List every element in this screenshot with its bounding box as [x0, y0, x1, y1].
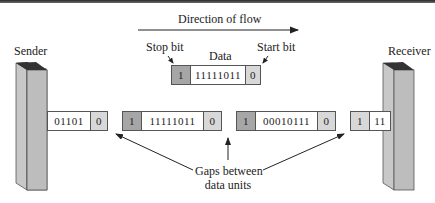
- stream-frame-4: 1 11: [350, 111, 391, 131]
- stop-bit-cell: 1: [123, 112, 141, 130]
- start-bit-cell: 0: [245, 66, 260, 84]
- start-bit-cell: 0: [90, 112, 107, 130]
- data-cell: 01101: [48, 112, 90, 130]
- direction-of-flow-label: Direction of flow: [178, 12, 261, 26]
- stop-bit-label: Stop bit: [146, 40, 184, 54]
- start-bit-label: Start bit: [257, 40, 295, 54]
- stream-frame-3: 1 00010111 0: [236, 111, 336, 131]
- data-cell: 11111011: [141, 112, 203, 130]
- stop-bit-cell: 1: [351, 112, 369, 130]
- legend-frame: 1 11111011 0: [171, 65, 261, 85]
- start-bit-pointer: [263, 56, 268, 63]
- data-label: Data: [209, 49, 232, 63]
- gaps-label: Gaps between data units: [195, 164, 261, 192]
- data-cell: 11111011: [190, 66, 245, 84]
- gaps-label-line1: Gaps between: [195, 164, 261, 178]
- stream-frame-2: 1 11111011 0: [122, 111, 222, 131]
- data-cell: 00010111: [255, 112, 317, 130]
- stream-frame-1: 01101 0: [47, 111, 108, 131]
- sender-label: Sender: [14, 44, 47, 58]
- stop-bit-cell: 1: [172, 66, 190, 84]
- data-cell: 11: [369, 112, 390, 130]
- stop-bit-pointer: [168, 56, 173, 63]
- stop-bit-cell: 1: [237, 112, 255, 130]
- receiver-label: Receiver: [388, 44, 431, 58]
- start-bit-cell: 0: [317, 112, 335, 130]
- sender-device: [16, 62, 47, 190]
- start-bit-cell: 0: [203, 112, 221, 130]
- gaps-label-line2: data units: [195, 178, 261, 192]
